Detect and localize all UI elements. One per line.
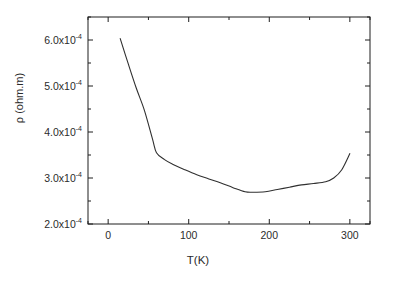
x-axis-tick-label: 300	[330, 229, 370, 241]
y-axis-tick-label: 2.0x10-4	[20, 217, 82, 230]
x-axis-tick-label: 100	[169, 229, 209, 241]
data-series-line	[120, 39, 350, 193]
y-axis-tick-label: 4.0x10-4	[20, 125, 82, 138]
y-axis-tick-label: 3.0x10-4	[20, 171, 82, 184]
y-axis-tick-label: 6.0x10-4	[20, 33, 82, 46]
y-axis-title-symbol: ρ	[13, 117, 25, 123]
plot-frame	[88, 17, 370, 224]
x-axis-tick-label: 0	[88, 229, 128, 241]
x-axis-title: T(K)	[0, 254, 396, 266]
x-axis-tick-label: 200	[249, 229, 289, 241]
y-axis-tick-label: 5.0x10-4	[20, 79, 82, 92]
resistivity-temperature-chart: ρ (ohm.m) T(K) 01002003002.0x10-43.0x10-…	[0, 0, 396, 281]
